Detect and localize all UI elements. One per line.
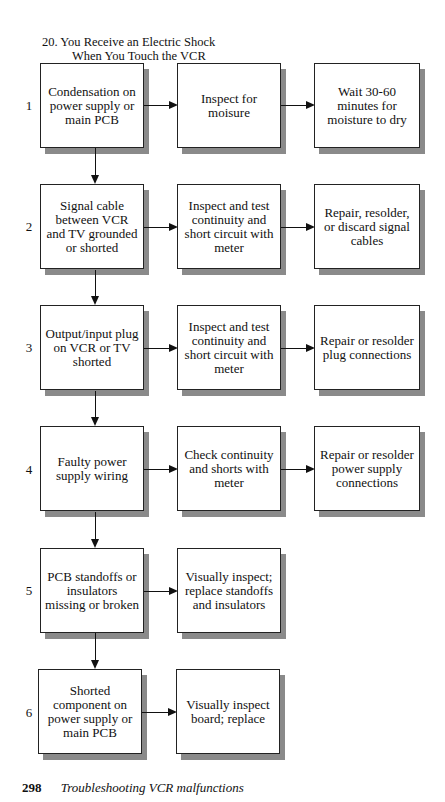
remedy-box: Repair or resolder plug connections [314, 305, 420, 390]
cause-box: Output/input plug on VCR or TV shorted [40, 305, 144, 390]
title-line-1: 20. You Receive an Electric Shock [42, 35, 215, 49]
connector-line [144, 348, 170, 349]
connector-line [95, 633, 96, 661]
page-number: 298 [22, 780, 42, 795]
step-number: 6 [22, 705, 36, 721]
connector-line [95, 148, 96, 176]
running-title: Troubleshooting VCR malfunctions [61, 780, 244, 795]
check-box: Check continuity and shorts with meter [177, 426, 281, 511]
arrow-down-icon [91, 175, 99, 184]
remedy-box: Repair, resolder, or discard signal cabl… [314, 184, 420, 269]
connector-line [281, 227, 307, 228]
flowchart-title: 20. You Receive an Electric Shock When Y… [42, 35, 215, 63]
connector-line [144, 591, 170, 592]
arrow-down-icon [91, 296, 99, 305]
connector-line [281, 469, 307, 470]
arrow-down-icon [91, 417, 99, 426]
connector-line [95, 270, 96, 297]
connector-line [144, 105, 170, 106]
arrow-down-icon [91, 539, 99, 548]
cause-box: Shorted component on power supply or mai… [38, 669, 142, 754]
check-box: Visually inspect board; replace [176, 669, 280, 754]
step-number: 5 [22, 583, 36, 599]
cause-box: Faulty power supply wiring [40, 426, 144, 511]
connector-line [95, 391, 96, 418]
connector-line [281, 105, 307, 106]
check-box: Visually inspect; replace standoffs and … [177, 548, 281, 633]
remedy-box: Wait 30-60 minutes for moisture to dry [314, 63, 420, 148]
connector-line [144, 227, 170, 228]
connector-line [144, 469, 170, 470]
check-box: Inspect and test continuity and short ci… [177, 305, 281, 390]
step-number: 4 [22, 462, 36, 478]
check-box: Inspect for moisure [177, 63, 281, 148]
connector-line [281, 348, 307, 349]
cause-box: Signal cable between VCR and TV grounded… [40, 184, 144, 269]
connector-line [95, 512, 96, 540]
step-number: 2 [22, 219, 36, 235]
remedy-box: Repair or resolder power supply connecti… [314, 426, 420, 511]
step-number: 1 [22, 98, 36, 114]
connector-line [142, 712, 170, 713]
cause-box: Condensation on power supply or main PCB [40, 63, 144, 148]
page-footer: 298 Troubleshooting VCR malfunctions [22, 780, 244, 796]
check-box: Inspect and test continuity and short ci… [177, 184, 281, 269]
arrow-down-icon [91, 660, 99, 669]
step-number: 3 [22, 340, 36, 356]
cause-box: PCB standoffs or insulators missing or b… [40, 548, 144, 633]
title-line-2: When You Touch the VCR [42, 49, 215, 63]
